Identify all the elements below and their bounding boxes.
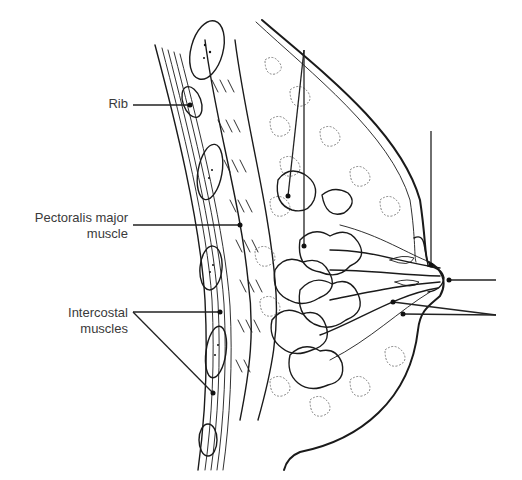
chest-wall <box>155 45 231 470</box>
rib-label-text: Rib <box>108 96 128 111</box>
right-leader-ducts-2 <box>403 314 496 315</box>
pectoralis-label-line1: Pectoralis major <box>10 210 128 226</box>
rib-label: Rib <box>60 96 128 112</box>
intercostal-label-line1: Intercostal <box>10 305 128 321</box>
lobules <box>271 171 361 388</box>
ducts <box>320 225 440 360</box>
leader-lines <box>133 50 496 396</box>
intercostal-label-line2: muscles <box>10 321 128 337</box>
intercostal-leader-2 <box>133 312 213 393</box>
fatty-tissue <box>255 57 405 416</box>
intercostal-label: Intercostal muscles <box>10 305 128 337</box>
pectoralis-muscle <box>205 40 276 420</box>
right-leader-ducts-1 <box>393 302 496 315</box>
breast-skin-contour <box>256 20 444 470</box>
top-leader-lobules-1 <box>288 50 304 196</box>
pectoralis-label: Pectoralis major muscle <box>10 210 128 242</box>
pectoralis-label-line2: muscle <box>10 226 128 242</box>
